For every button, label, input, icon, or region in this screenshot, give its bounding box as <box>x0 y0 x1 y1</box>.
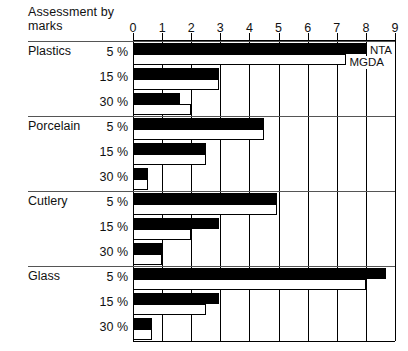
gridline-9 <box>395 41 396 341</box>
level-label-plastics-5: 5 % <box>106 45 128 59</box>
x-axis-tick-labels: 0123456789 <box>0 21 408 37</box>
level-label-glass-30: 30 % <box>100 320 129 334</box>
x-axis-tick-mark-1 <box>162 33 163 40</box>
bar-nta-porcelain-30 <box>133 168 148 179</box>
group-divider-porcelain <box>28 116 395 117</box>
bar-mgda-glass-15 <box>133 304 206 315</box>
bar-nta-glass-5 <box>133 268 386 279</box>
bar-mgda-porcelain-15 <box>133 154 206 165</box>
bar-nta-porcelain-5 <box>133 118 264 129</box>
level-label-porcelain-30: 30 % <box>100 170 129 184</box>
group-divider-glass <box>28 266 395 267</box>
level-label-glass-5: 5 % <box>106 270 128 284</box>
x-axis-tick-mark-6 <box>308 33 309 40</box>
group-label-cutlery: Cutlery <box>28 194 68 208</box>
level-label-cutlery-5: 5 % <box>106 195 128 209</box>
bar-mgda-cutlery-30 <box>133 254 162 265</box>
bar-nta-glass-30 <box>133 318 152 329</box>
group-label-plastics: Plastics <box>28 44 71 58</box>
bar-nta-cutlery-5 <box>133 193 277 204</box>
bar-nta-cutlery-30 <box>133 243 162 254</box>
bar-nta-plastics-5 <box>133 43 366 54</box>
level-label-cutlery-15: 15 % <box>100 220 129 234</box>
plot-bottom-rule <box>133 341 395 342</box>
bar-mgda-glass-30 <box>133 329 152 340</box>
x-axis-tick-mark-2 <box>191 33 192 40</box>
x-axis-tick-mark-5 <box>279 33 280 40</box>
group-label-glass: Glass <box>28 269 60 283</box>
bar-nta-plastics-15 <box>133 68 219 79</box>
bar-mgda-cutlery-15 <box>133 229 191 240</box>
x-axis-tick-mark-3 <box>220 33 221 40</box>
x-axis-tick-mark-0 <box>133 33 134 40</box>
series-annotation-mgda: MGDA <box>349 56 386 69</box>
x-axis-tick-mark-7 <box>337 33 338 40</box>
level-label-plastics-15: 15 % <box>100 70 129 84</box>
level-label-glass-15: 15 % <box>100 295 129 309</box>
level-label-porcelain-5: 5 % <box>106 120 128 134</box>
x-axis-tick-mark-8 <box>366 33 367 40</box>
group-divider-plastics <box>28 41 395 42</box>
level-label-plastics-30: 30 % <box>100 95 129 109</box>
bar-mgda-porcelain-30 <box>133 179 148 190</box>
level-label-cutlery-30: 30 % <box>100 245 129 259</box>
x-axis-tick-mark-9 <box>395 33 396 40</box>
bar-nta-cutlery-15 <box>133 218 219 229</box>
bar-mgda-porcelain-5 <box>133 129 264 140</box>
level-label-porcelain-15: 15 % <box>100 145 129 159</box>
bar-mgda-cutlery-5 <box>133 204 277 215</box>
bar-mgda-plastics-30 <box>133 104 191 115</box>
bar-mgda-glass-5 <box>133 279 366 290</box>
bar-nta-glass-15 <box>133 293 219 304</box>
bar-nta-plastics-30 <box>133 93 180 104</box>
x-axis-tick-mark-4 <box>249 33 250 40</box>
bar-mgda-plastics-15 <box>133 79 219 90</box>
group-label-porcelain: Porcelain <box>28 119 80 133</box>
bar-mgda-plastics-5 <box>133 54 346 65</box>
group-divider-cutlery <box>28 191 395 192</box>
bar-chart: Assessment by marks 0123456789 Plastics5… <box>0 0 408 351</box>
bar-nta-porcelain-15 <box>133 143 206 154</box>
